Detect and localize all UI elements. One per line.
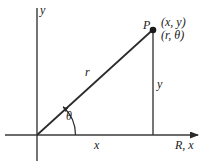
- polar-coords-label: (r, θ): [161, 29, 184, 41]
- radius-line: [37, 31, 152, 136]
- angle-label: θ: [66, 110, 72, 122]
- polar-coordinates-figure: y P (x, y) (r, θ) r y θ x R, x: [0, 0, 209, 166]
- point-p-label: P: [143, 19, 150, 31]
- radius-label: r: [85, 66, 90, 78]
- horizontal-leg-label: x: [94, 139, 99, 151]
- point-p-dot: [150, 27, 157, 34]
- rectangular-coords-label: (x, y): [161, 16, 186, 28]
- y-axis-label: y: [40, 4, 45, 16]
- vertical-leg-label: y: [157, 78, 162, 90]
- x-axis-label: R, x: [175, 139, 194, 151]
